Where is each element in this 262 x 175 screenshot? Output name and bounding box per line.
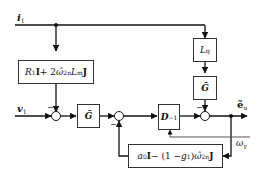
output-label-omega-gamma: ωγ [236,139,247,149]
Lq-block: Lq [193,38,217,62]
D-inverse-block: D−1 [158,104,180,130]
minus-sign-sum2: − [110,121,117,129]
G-tilde-mid-block: G̃ [77,104,100,128]
resistance-inductance-block: R1I + 2ω̂2nLmJ [18,60,94,84]
G-tilde-top-block: G̃ [193,76,217,100]
output-label-e-u: ẽu [237,100,247,111]
minus-sign-sum1: − [47,104,54,112]
input-label-i1: i1 [17,13,25,24]
feedback-gain-block: a0I − (1 − g1)ω̂2nJ [128,144,223,168]
minus-sign-sum3: − [196,104,203,112]
input-label-v1: v1 [17,104,27,115]
